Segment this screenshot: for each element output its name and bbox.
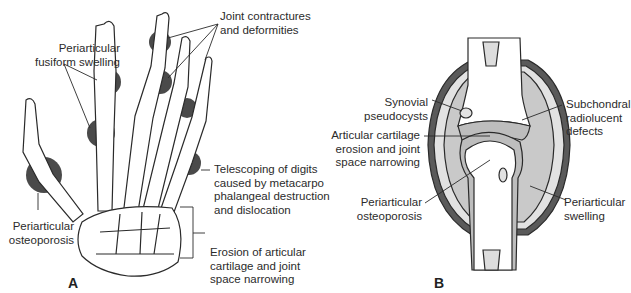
panel-letter-a: A (68, 275, 78, 291)
label-synovial-pseudocysts: Synovial pseudocysts (340, 96, 428, 123)
panel-letter-b: B (434, 275, 444, 291)
joint-cross-section-illustration (424, 38, 570, 270)
label-articular-cartilage-erosion: Articular cartilage erosion and joint sp… (322, 129, 420, 170)
label-subchondral-radiolucent-defects: Subchondral radiolucent defects (566, 98, 631, 139)
label-erosion-of-articular-cartilage: Erosion of articular cartilage and joint… (210, 246, 306, 287)
label-periarticular-osteoporosis-b: Periarticular osteoporosis (340, 196, 422, 223)
label-periarticular-fusiform-swelling: Periarticular fusiform swelling (8, 42, 120, 69)
label-telescoping-of-digits: Telescoping of digits caused by metacarp… (214, 163, 330, 217)
label-joint-contractures: Joint contractures and deformities (220, 10, 311, 37)
label-periarticular-swelling: Periarticular swelling (564, 196, 625, 223)
label-periarticular-osteoporosis-a: Periarticular osteoporosis (4, 220, 74, 247)
